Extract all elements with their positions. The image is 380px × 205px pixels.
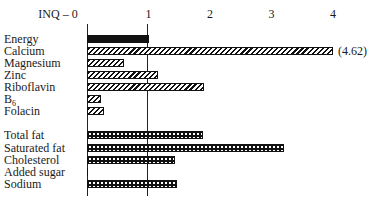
bar-riboflavin xyxy=(87,83,204,91)
x-tick-label: 2 xyxy=(207,8,213,20)
category-label: Folacin xyxy=(4,105,40,117)
category-label: Total fat xyxy=(4,129,44,141)
bar-magnesium xyxy=(87,59,124,67)
x-tick-label: 4 xyxy=(330,8,336,20)
axis-origin-label: INQ – 0 xyxy=(38,8,77,20)
value-annotation: (4.62) xyxy=(338,45,367,57)
category-label: Sodium xyxy=(4,178,41,190)
bar-total-fat xyxy=(87,131,203,139)
bar-added-sugar xyxy=(87,168,88,176)
bar-cholesterol xyxy=(87,156,175,164)
bar-calcium xyxy=(87,47,333,55)
bar-b6 xyxy=(87,95,101,103)
bar-sodium xyxy=(87,180,177,188)
bar-energy xyxy=(87,35,149,43)
inq-bar-chart: INQ – 0 1234 EnergyCalcium(4.62)Magnesiu… xyxy=(0,0,380,205)
bar-folacin xyxy=(87,107,104,115)
x-tick-label: 1 xyxy=(146,8,152,20)
x-tick-label: 3 xyxy=(269,8,275,20)
bar-saturated-fat xyxy=(87,144,284,152)
bar-zinc xyxy=(87,71,158,79)
